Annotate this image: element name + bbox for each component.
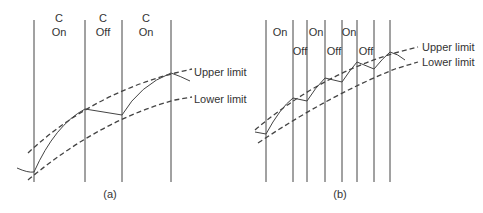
segment-label: C <box>142 12 150 24</box>
off-label: Off <box>359 45 374 57</box>
lower-limit-label: Lower limit <box>194 93 247 105</box>
caption-b: (b) <box>333 188 346 200</box>
off-label: Off <box>327 45 342 57</box>
lower-limit-label: Lower limit <box>422 56 475 68</box>
caption-a: (a) <box>103 188 116 200</box>
lower-limit-curve-b <box>258 62 418 143</box>
upper-limit-label: Upper limit <box>422 41 475 53</box>
segment-label: On <box>52 26 67 38</box>
upper-limit-label: Upper limit <box>194 66 247 78</box>
temperature-curve-b <box>255 52 405 134</box>
on-label: On <box>273 26 288 38</box>
segment-label: Off <box>96 26 111 38</box>
on-label: On <box>309 26 324 38</box>
upper-limit-curve-b <box>255 47 418 130</box>
temperature-curve-a <box>17 73 190 172</box>
off-label: Off <box>293 45 308 57</box>
segment-label: C <box>99 12 107 24</box>
panel-a <box>17 20 192 182</box>
upper-limit-curve-a <box>28 69 192 153</box>
segment-label: On <box>139 26 154 38</box>
diagram-canvas: C On C Off C On Upper limit Lower limit … <box>0 0 483 213</box>
segment-label: C <box>55 12 63 24</box>
on-label: On <box>342 26 357 38</box>
